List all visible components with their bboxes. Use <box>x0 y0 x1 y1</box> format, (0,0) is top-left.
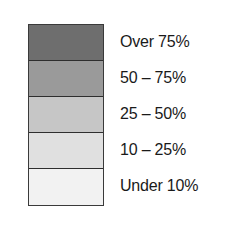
legend-label-under-10: Under 10% <box>120 168 198 204</box>
legend-label-50-75: 50 – 75% <box>120 60 198 96</box>
swatch-50-75 <box>29 61 103 97</box>
swatch-under-10 <box>29 169 103 205</box>
legend-label-25-50: 25 – 50% <box>120 96 198 132</box>
legend-swatch-stack <box>28 24 104 206</box>
swatch-over-75 <box>29 25 103 61</box>
legend-label-10-25: 10 – 25% <box>120 132 198 168</box>
legend-label-over-75: Over 75% <box>120 24 198 60</box>
swatch-10-25 <box>29 133 103 169</box>
legend-labels: Over 75% 50 – 75% 25 – 50% 10 – 25% Unde… <box>120 24 198 204</box>
swatch-25-50 <box>29 97 103 133</box>
